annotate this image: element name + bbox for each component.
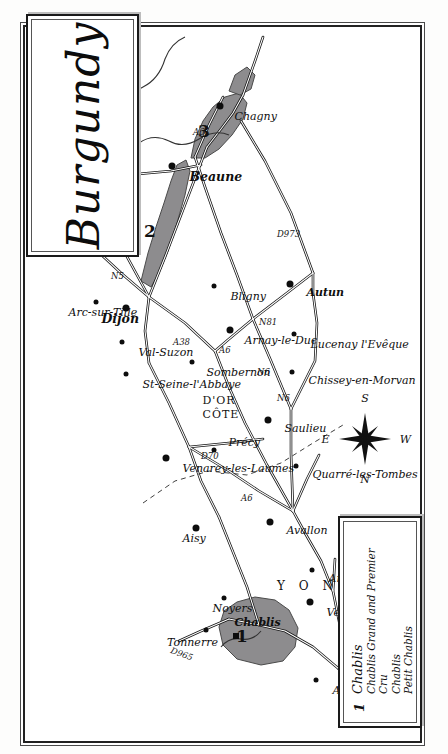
compass-star-icon	[322, 396, 408, 482]
place-label-chissey-en-morvan: Chissey-en-Morvan	[309, 374, 416, 387]
city-dot-vermenton	[307, 599, 314, 606]
city-dot-precy	[212, 448, 217, 453]
place-label-noyers: Noyers	[213, 602, 253, 615]
city-marker-chablis	[233, 633, 239, 639]
city-dot-saulieu	[265, 417, 272, 424]
city-dot-arc-sur-tille	[94, 300, 99, 305]
legend-number: 1	[352, 703, 366, 712]
city-dot-st-seine-labbaye	[124, 372, 129, 377]
road-label-d973: D973	[277, 229, 300, 239]
place-label-aisy: Aisy	[183, 532, 206, 545]
city-dot-avallon	[267, 519, 274, 526]
legend-text-block: Chablis Chablis Grand and Premier Cru Ch…	[352, 532, 415, 694]
city-dot-auxerre	[314, 678, 319, 683]
compass-label-south: W	[400, 433, 411, 446]
city-dot-chissey-en-morvan	[290, 370, 295, 375]
road-label-d70: D70	[201, 451, 219, 461]
city-dot-tonnerre	[204, 628, 209, 633]
place-label-lucenay-leveque: Lucenay l'Evêque	[311, 338, 409, 351]
legend-region-name: Chablis	[352, 532, 365, 694]
city-dot-aisy	[193, 525, 200, 532]
city-dot-arnay-le-duc	[227, 327, 234, 334]
place-label-avallon: Avallon	[287, 524, 328, 537]
place-label-dijon: Dijon	[102, 311, 140, 326]
place-label-saulieu: Saulieu	[285, 422, 327, 435]
road-label-a6-sombernon: A6	[219, 345, 231, 355]
city-dot-val-suzon	[120, 340, 125, 345]
city-dot-bligny	[212, 284, 217, 289]
page-title: Burgundy	[57, 16, 108, 255]
map-canvas: 1 2 3 Y O N N E CÔTE D'OR SAÔNE D965 A6 …	[0, 0, 448, 754]
city-dot-beaune	[169, 163, 176, 170]
road-label-n81: N81	[259, 317, 277, 327]
place-label-chablis: Chablis	[235, 616, 281, 629]
road-label-n6-arnay: N6	[277, 393, 290, 403]
legend-sub-3: Petit Chablis	[402, 532, 415, 694]
place-label-sombernon: Sombernon	[207, 366, 271, 379]
department-label-cote: CÔTE	[203, 408, 240, 421]
compass-label-north: E	[321, 433, 329, 446]
city-dot-sombernon	[190, 360, 195, 365]
compass-rose: E W N S	[322, 396, 408, 482]
legend-inner-border: 1 Chablis Chablis Grand and Premier Cru …	[343, 521, 417, 723]
map-page: 1 2 3 Y O N N E CÔTE D'OR SAÔNE D965 A6 …	[0, 0, 448, 754]
compass-label-east: S	[361, 391, 369, 404]
rotated-map-wrapper: 1 2 3 Y O N N E CÔTE D'OR SAÔNE D965 A6 …	[0, 0, 448, 754]
place-label-tonnerre: Tonnerre	[167, 636, 218, 649]
legend-entry-1: 1 Chablis Chablis Grand and Premier Cru …	[352, 532, 415, 712]
place-label-arnay-le-duc: Arnay-le-Duc	[245, 334, 318, 347]
legend-sub-2: Chablis	[390, 532, 403, 694]
legend-sub-1: Chablis Grand and Premier Cru	[365, 532, 390, 694]
place-label-st-seine-labbaye: St-Seine-l'Abbaye	[143, 378, 241, 391]
road-label-a6-avallon: A6	[241, 493, 253, 503]
legend-cartouche: 1 Chablis Chablis Grand and Premier Cru …	[338, 516, 422, 728]
place-label-beaune: Beaune	[190, 169, 243, 184]
place-label-chagny: Chagny	[235, 110, 277, 123]
title-cartouche: Burgundy	[26, 14, 139, 257]
place-label-venarey-les-laumes: Venarey-les-Laumes	[183, 462, 295, 475]
city-dot-noyers	[222, 596, 227, 601]
city-dot-venarey-les-laumes	[163, 455, 170, 462]
city-dot-chagny	[217, 103, 224, 110]
place-label-val-suzon: Val-Suzon	[139, 346, 194, 359]
department-label-dor: D'OR	[203, 394, 236, 407]
place-label-autun: Autun	[307, 286, 345, 299]
city-dot-arcy	[310, 568, 315, 573]
compass-label-west: N	[360, 473, 370, 486]
city-dot-autun	[287, 281, 294, 288]
place-label-precy: Précy	[229, 436, 261, 449]
zone-number-2: 2	[144, 221, 156, 241]
place-label-bligny: Bligny	[231, 290, 266, 303]
road-label-a6-chagny: A6	[193, 127, 205, 137]
road-label-n5: N5	[111, 271, 124, 281]
